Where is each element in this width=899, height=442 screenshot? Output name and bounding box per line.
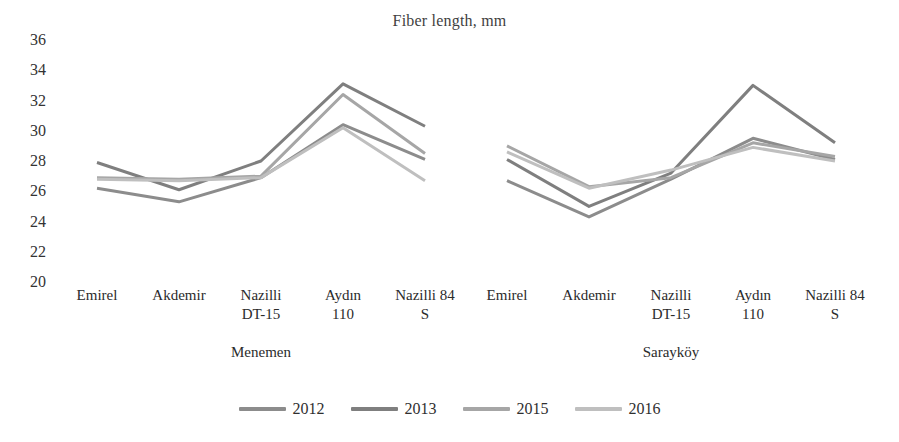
x-axis-group-labels: MenemenSarayköy [56, 344, 876, 370]
x-tick-label: Nazilli 84S [794, 284, 876, 344]
x-tick-label: Nazilli 84S [384, 284, 466, 344]
y-axis-tick-20: 20 [2, 273, 46, 291]
group-label-Sarayköy: Sarayköy [466, 344, 876, 370]
series-line-2016-group-Sarayköy [507, 147, 835, 188]
x-tick-line2: DT-15 [630, 305, 712, 324]
legend-swatch-icon [463, 407, 510, 411]
x-tick-line1: Nazilli [220, 286, 302, 305]
y-axis-tick-30: 30 [2, 122, 46, 140]
x-tick-line1: Akdemir [138, 286, 220, 305]
x-axis-category-labels: EmirelAkdemirNazilliDT-15Aydın110Nazilli… [56, 284, 876, 344]
x-tick-line1: Emirel [466, 286, 548, 305]
legend-swatch-icon [575, 407, 622, 411]
y-axis-tick-24: 24 [2, 213, 46, 231]
x-tick-line1: Nazilli [630, 286, 712, 305]
x-tick-line1: Nazilli 84 [384, 286, 466, 305]
x-tick-label: Emirel [56, 284, 138, 344]
x-tick-label: Aydın110 [302, 284, 384, 344]
series-line-2012-group-Menemen [97, 125, 425, 202]
x-tick-line2: S [794, 305, 876, 324]
legend-label: 2015 [517, 400, 549, 418]
legend-item-2015[interactable]: 2015 [463, 400, 549, 418]
y-axis-tick-22: 22 [2, 243, 46, 261]
legend-swatch-icon [351, 407, 398, 411]
x-tick-label: Aydın110 [712, 284, 794, 344]
legend-swatch-icon [239, 407, 286, 411]
x-tick-line1: Aydın [302, 286, 384, 305]
series-line-2013-group-Menemen [97, 84, 425, 190]
y-axis-tick-36: 36 [2, 31, 46, 49]
series-line-2016-group-Menemen [97, 128, 425, 181]
x-group-Menemen: EmirelAkdemirNazilliDT-15Aydın110Nazilli… [56, 284, 466, 344]
legend-label: 2012 [293, 400, 325, 418]
x-tick-line2: DT-15 [220, 305, 302, 324]
line-series-svg [56, 40, 876, 282]
x-tick-label: NazilliDT-15 [220, 284, 302, 344]
legend-label: 2013 [405, 400, 437, 418]
x-tick-line1: Emirel [56, 286, 138, 305]
y-axis-tick-32: 32 [2, 92, 46, 110]
chart-legend: 2012201320152016 [0, 400, 899, 418]
y-axis-tick-28: 28 [2, 152, 46, 170]
x-tick-line2: 110 [302, 305, 384, 324]
x-tick-label: Akdemir [548, 284, 630, 344]
legend-item-2016[interactable]: 2016 [575, 400, 661, 418]
y-axis-tick-34: 34 [2, 61, 46, 79]
x-tick-line2: S [384, 305, 466, 324]
plot-area [56, 40, 876, 282]
x-group-Sarayköy: EmirelAkdemirNazilliDT-15Aydın110Nazilli… [466, 284, 876, 344]
chart-container: Fiber length, mm 202224262830323436 Emir… [0, 0, 899, 442]
x-tick-line1: Aydın [712, 286, 794, 305]
x-tick-label: Emirel [466, 284, 548, 344]
y-axis-tick-labels: 202224262830323436 [0, 40, 50, 282]
legend-label: 2016 [629, 400, 661, 418]
legend-item-2012[interactable]: 2012 [239, 400, 325, 418]
legend-item-2013[interactable]: 2013 [351, 400, 437, 418]
y-axis-tick-26: 26 [2, 182, 46, 200]
x-tick-label: Akdemir [138, 284, 220, 344]
x-tick-line1: Akdemir [548, 286, 630, 305]
series-line-2015-group-Menemen [97, 94, 425, 179]
x-tick-line2: 110 [712, 305, 794, 324]
x-tick-label: NazilliDT-15 [630, 284, 712, 344]
x-tick-line1: Nazilli 84 [794, 286, 876, 305]
group-label-Menemen: Menemen [56, 344, 466, 370]
chart-title: Fiber length, mm [0, 12, 899, 30]
